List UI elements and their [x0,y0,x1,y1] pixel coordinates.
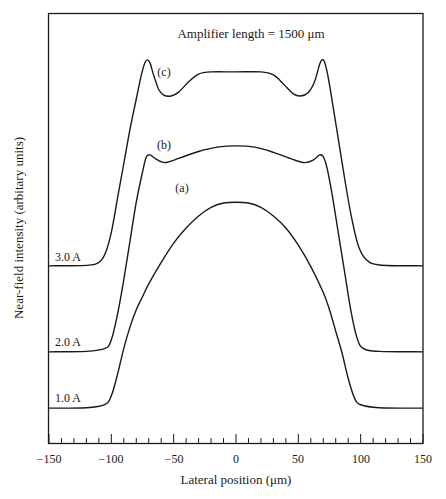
curve-b [49,146,423,352]
curve-c-label: (c) [157,65,170,79]
x-axis-ticks [49,434,423,443]
x-tick-label: 50 [292,452,304,466]
x-tick-label: −150 [37,452,62,466]
plot-frame [49,14,424,444]
x-tick-label: 100 [352,452,370,466]
curve-c [49,60,423,266]
chart-title: Amplifier length = 1500 μm [177,26,324,41]
curves [49,60,423,409]
curve-a-label: (a) [175,181,188,195]
x-tick-label: 0 [233,452,239,466]
x-tick-labels: −150 −100 −50 0 50 100 150 [37,452,432,466]
curve-b-label: (b) [157,138,171,152]
x-axis-label: Lateral position (μm) [181,472,292,487]
x-tick-label: −100 [99,452,124,466]
current-3a-label: 3.0 A [55,250,81,264]
current-1a-label: 1.0 A [55,391,81,405]
x-tick-label: −50 [165,452,184,466]
curve-a [49,202,423,408]
y-axis-label: Near-field intensity (arbitary units) [11,137,26,319]
near-field-chart: Amplifier length = 1500 μm (c) (b) (a) 3… [0,0,446,499]
current-2a-label: 2.0 A [55,335,81,349]
x-tick-label: 150 [414,452,432,466]
